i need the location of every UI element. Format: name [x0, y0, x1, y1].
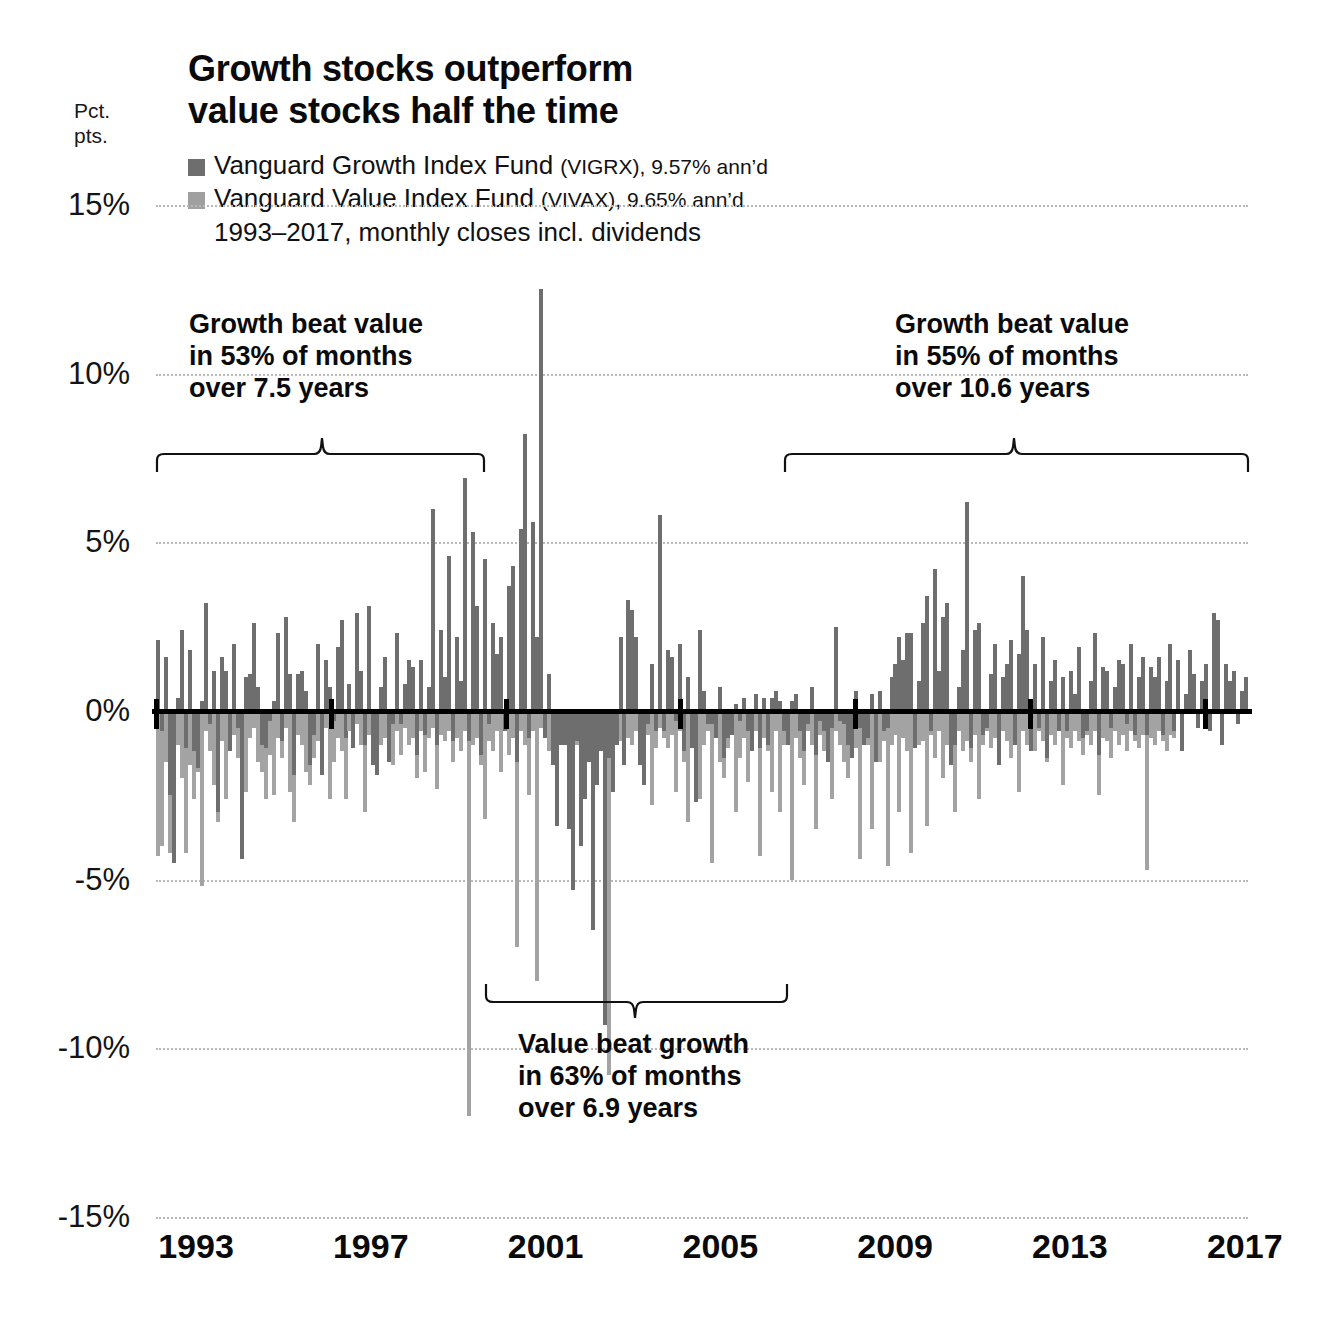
x-axis-tick-label: 2001 [466, 1228, 626, 1264]
x-axis-tick-label: 1993 [116, 1228, 276, 1264]
bar [535, 711, 539, 981]
bar [834, 627, 838, 711]
annotation-left-line3: over 7.5 years [189, 372, 489, 404]
bar [383, 657, 387, 711]
gridline [156, 1217, 1248, 1219]
bar [993, 644, 997, 711]
zero-axis-line [152, 709, 1252, 714]
bar [1141, 657, 1145, 711]
bar [1033, 664, 1037, 711]
bar [539, 289, 543, 711]
bar [347, 684, 351, 711]
bar [1105, 671, 1109, 711]
bar [367, 606, 371, 711]
y-axis-tick-label: 0% [14, 695, 130, 726]
y-axis-unit-label: Pct. pts. [74, 98, 110, 148]
bar [395, 633, 399, 711]
gridline [156, 542, 1248, 544]
bar [702, 691, 706, 711]
bar [523, 434, 527, 711]
legend-growth-detail: (VIGRX), 9.57% ann’d [560, 152, 768, 182]
bar [1172, 711, 1176, 731]
chart-title: Growth stocks outperform value stocks ha… [188, 48, 848, 132]
bracket-middle [479, 982, 797, 1022]
bar [965, 502, 969, 711]
x-axis-tick [504, 699, 509, 729]
bar [204, 603, 208, 711]
bar [1009, 640, 1013, 711]
bar [1061, 677, 1065, 711]
bar [1220, 711, 1224, 745]
bar [1093, 633, 1097, 711]
bar [276, 633, 280, 711]
bar [419, 660, 423, 711]
bar [878, 691, 882, 711]
bar [909, 633, 913, 711]
bar [411, 667, 415, 711]
bar [212, 671, 216, 711]
y-axis-tick-label: 5% [14, 526, 130, 557]
annotation-right-line3: over 10.6 years [895, 372, 1195, 404]
bar [316, 644, 320, 711]
annotation-middle-line2: in 63% of months [518, 1060, 818, 1092]
bar [467, 711, 471, 1116]
legend-item-growth: Vanguard Growth Index Fund (VIGRX), 9.57… [188, 150, 908, 183]
legend-swatch-growth-icon [188, 159, 205, 176]
gridline [156, 880, 1248, 882]
bar [511, 566, 515, 711]
bar [1192, 674, 1196, 711]
annotation-left-line2: in 53% of months [189, 340, 489, 372]
bar [180, 630, 184, 711]
bar [475, 606, 479, 711]
annotation-left-line1: Growth beat value [189, 308, 489, 340]
annotation-right: Growth beat value in 55% of months over … [895, 308, 1195, 404]
bar [810, 687, 814, 711]
x-axis-tick-label: 1997 [291, 1228, 451, 1264]
x-axis-tick [154, 699, 159, 729]
bar [547, 674, 551, 711]
bar [256, 687, 260, 711]
bar [499, 637, 503, 711]
gridline [156, 205, 1248, 207]
bar [188, 650, 192, 711]
bar [718, 687, 722, 711]
bar [304, 691, 308, 711]
x-axis-tick [1028, 699, 1033, 729]
bar [1180, 711, 1184, 751]
bar [619, 637, 623, 711]
x-axis-tick [853, 699, 858, 729]
y-axis-tick-label: 10% [14, 358, 130, 389]
chart-canvas: Pct. pts. Growth stocks outperform value… [0, 0, 1334, 1331]
bar [200, 711, 204, 886]
x-axis-tick-label: 2009 [815, 1228, 975, 1264]
bar [1077, 647, 1081, 711]
bar [1216, 620, 1220, 711]
y-axis-unit-line2: pts. [74, 123, 110, 148]
annotation-right-line1: Growth beat value [895, 308, 1195, 340]
bar [340, 620, 344, 711]
bracket-left [150, 436, 494, 472]
y-axis-tick-label: -10% [14, 1032, 130, 1063]
bar [1157, 657, 1161, 711]
bar [1208, 711, 1212, 731]
bar [650, 664, 654, 711]
y-axis-tick-label: -5% [14, 864, 130, 895]
y-axis-tick-label: -15% [14, 1201, 130, 1232]
bar [463, 478, 467, 711]
annotation-middle-line3: over 6.9 years [518, 1092, 818, 1124]
bar [977, 623, 981, 711]
bar [1232, 671, 1236, 711]
bar [1176, 660, 1180, 711]
bar [447, 556, 451, 711]
y-axis-tick-label: 15% [14, 189, 130, 220]
bar [431, 509, 435, 711]
x-axis-tick [1203, 699, 1208, 729]
annotation-middle-line1: Value beat growth [518, 1028, 818, 1060]
y-axis-unit-line1: Pct. [74, 98, 110, 123]
x-axis-tick-label: 2017 [1165, 1228, 1325, 1264]
bar [634, 637, 638, 711]
x-axis-tick-label: 2005 [640, 1228, 800, 1264]
bar [1041, 637, 1045, 711]
x-axis-tick-label: 2013 [990, 1228, 1150, 1264]
chart-title-line1: Growth stocks outperform [188, 48, 848, 90]
